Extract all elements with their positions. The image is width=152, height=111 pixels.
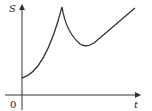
origin-label: 0 — [10, 99, 16, 110]
s-curve — [22, 7, 135, 78]
x-axis-label: t — [134, 99, 139, 110]
s-vs-t-graph: S t 0 — [0, 0, 152, 111]
y-axis-label: S — [9, 3, 16, 14]
